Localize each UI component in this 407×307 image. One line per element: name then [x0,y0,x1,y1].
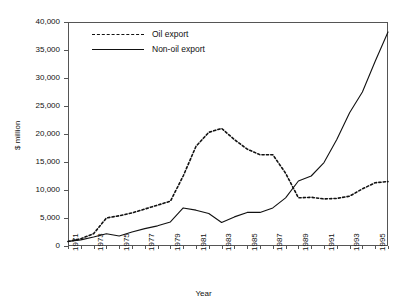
x-tick-mark [311,246,312,249]
x-tick-label: 1991 [328,233,336,251]
x-tick-mark [286,246,287,249]
chart-legend: Oil export Non-oil export [90,26,240,56]
x-tick-label: 1971 [72,233,80,251]
x-tick-mark [145,246,146,249]
x-tick-mark [375,246,376,249]
y-tick-mark [64,106,68,107]
y-tick-mark [64,218,68,219]
y-tick-mark [64,22,68,23]
y-tick-label: 40,000 [12,18,60,26]
x-tick-mark [324,246,325,249]
x-tick-mark [81,246,82,249]
y-tick-mark [64,78,68,79]
x-tick-mark [298,246,299,249]
legend-swatch-dashed-icon [90,30,146,38]
x-tick-label: 1987 [276,233,284,251]
x-tick-mark [222,246,223,249]
x-axis-label: Year [0,289,407,298]
x-tick-label: 1973 [97,233,105,251]
x-tick-mark [94,246,95,249]
legend-swatch-solid-icon [90,45,146,53]
legend-label-oil-export: Oil export [152,29,188,39]
y-tick-label: 0 [12,242,60,250]
x-tick-mark [350,246,351,249]
x-tick-label: 1989 [302,233,310,251]
y-tick-mark [64,190,68,191]
x-tick-label: 1981 [200,233,208,251]
y-tick-mark [64,50,68,51]
x-tick-label: 1975 [123,233,131,251]
x-tick-mark [132,246,133,249]
x-tick-label: 1979 [174,233,182,251]
x-tick-mark [106,246,107,249]
x-tick-mark [209,246,210,249]
x-tick-mark [273,246,274,249]
x-tick-mark [362,246,363,249]
chart-figure: $ million Year Oil export Non-oil export… [0,0,407,307]
x-tick-mark [196,246,197,249]
legend-item-non-oil-export: Non-oil export [90,41,240,56]
y-tick-mark [64,162,68,163]
x-tick-mark [234,246,235,249]
x-tick-mark [170,246,171,249]
y-tick-label: 10,000 [12,186,60,194]
x-tick-mark [247,246,248,249]
y-tick-label: 30,000 [12,74,60,82]
x-tick-mark [119,246,120,249]
legend-item-oil-export: Oil export [90,26,240,41]
x-tick-mark [260,246,261,249]
x-tick-mark [183,246,184,249]
x-tick-label: 1995 [379,233,387,251]
y-tick-label: 5,000 [12,214,60,222]
x-tick-label: 1985 [251,233,259,251]
x-tick-mark [337,246,338,249]
x-tick-mark [68,246,69,249]
y-tick-label: 20,000 [12,130,60,138]
y-tick-mark [64,134,68,135]
y-tick-label: 35,000 [12,46,60,54]
x-tick-label: 1983 [225,233,233,251]
x-tick-label: 1993 [353,233,361,251]
y-tick-label: 25,000 [12,102,60,110]
legend-label-non-oil-export: Non-oil export [152,44,205,54]
x-tick-mark [158,246,159,249]
x-tick-label: 1977 [148,233,156,251]
y-tick-label: 15,000 [12,158,60,166]
x-tick-mark [388,246,389,249]
